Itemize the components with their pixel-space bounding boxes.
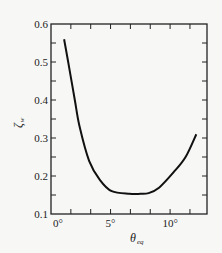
data-series: [64, 39, 196, 194]
y-tick-label: 0.1: [34, 208, 48, 220]
x-tick-label: 0°: [53, 217, 63, 229]
x-tick-label: 10°: [162, 217, 177, 229]
plot-frame: [51, 24, 207, 214]
y-axis-title: ζw: [11, 117, 26, 128]
y-axis-ticks: 0.10.20.30.40.50.6: [34, 18, 207, 220]
y-tick-label: 0.2: [34, 170, 48, 182]
axes-frame: [51, 24, 207, 214]
x-tick-label: 5°: [106, 217, 116, 229]
y-tick-label: 0.6: [34, 18, 48, 30]
series-line: [64, 39, 196, 194]
line-chart: 0°5°10° 0.10.20.30.40.50.6 θeq ζw: [0, 0, 222, 253]
y-tick-label: 0.4: [34, 94, 48, 106]
y-tick-label: 0.3: [34, 132, 48, 144]
x-axis-ticks: 0°5°10°: [53, 24, 190, 229]
x-axis-title: θeq: [130, 231, 144, 246]
y-tick-label: 0.5: [34, 56, 48, 68]
